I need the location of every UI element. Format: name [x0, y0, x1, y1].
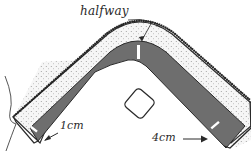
left-measure-arrow — [44, 133, 58, 141]
sewing-diagram: halfway 1cm 4cm — [0, 0, 251, 151]
right-measure-label: 4cm — [152, 132, 176, 143]
halfway-label: halfway — [80, 5, 129, 17]
diagram-canvas — [0, 0, 251, 151]
thread — [5, 76, 16, 151]
halfway-mark — [137, 45, 140, 59]
center-square — [123, 87, 155, 119]
left-measure-label: 1cm — [60, 120, 84, 131]
right-measure-arrow — [183, 136, 208, 143]
